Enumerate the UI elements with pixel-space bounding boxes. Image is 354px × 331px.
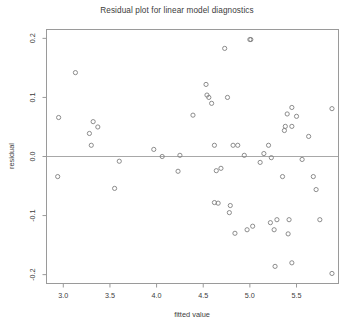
x-tick-label: 3.0 [58, 291, 68, 300]
data-point [204, 82, 208, 86]
data-point [275, 218, 279, 222]
data-point [113, 186, 117, 190]
x-tick-label: 4.0 [152, 291, 162, 300]
x-tick-label: 5.0 [245, 291, 255, 300]
data-point [307, 134, 311, 138]
x-tick-label: 4.5 [198, 291, 208, 300]
residual-plot-figure: Residual plot for linear model diagnosti… [0, 0, 354, 331]
data-point [285, 112, 289, 116]
data-point [290, 105, 294, 109]
data-point [262, 151, 266, 155]
data-point [87, 131, 91, 135]
data-point [282, 128, 286, 132]
data-point [152, 147, 156, 151]
data-point [219, 166, 223, 170]
data-point [212, 143, 216, 147]
data-point [231, 143, 235, 147]
data-point [225, 95, 229, 99]
data-point [268, 221, 272, 225]
data-point [272, 228, 276, 232]
data-point [294, 114, 298, 118]
data-point [89, 143, 93, 147]
data-point [117, 159, 121, 163]
x-tick-label: 3.5 [105, 291, 115, 300]
data-point [56, 174, 60, 178]
x-axis-label: fitted value [174, 310, 210, 319]
y-tick-label: 0.0 [28, 152, 37, 162]
y-axis-label: residual [7, 143, 16, 169]
data-point [258, 160, 262, 164]
data-point [283, 124, 287, 128]
y-tick-label: -0.1 [28, 209, 37, 221]
data-point [223, 46, 227, 50]
data-point [330, 271, 334, 275]
data-point [290, 124, 294, 128]
data-point [330, 107, 334, 111]
data-point [227, 211, 231, 215]
data-point [273, 264, 277, 268]
data-point [251, 224, 255, 228]
x-tick-label: 5.5 [292, 291, 302, 300]
data-point [73, 71, 77, 75]
y-tick-label: 0.2 [28, 33, 37, 43]
data-point [228, 203, 232, 207]
y-axis-ticks: 0.20.10.0-0.1-0.2 [28, 33, 47, 280]
data-point [57, 115, 61, 119]
data-point [191, 113, 195, 117]
data-point [214, 169, 218, 173]
scatter-plot-canvas: 0.20.10.0-0.1-0.2 3.03.54.04.55.05.5 fit… [0, 0, 354, 331]
data-point [176, 169, 180, 173]
y-tick-label: -0.2 [28, 268, 37, 280]
data-point [91, 120, 95, 124]
data-point [286, 232, 290, 236]
data-point [318, 218, 322, 222]
data-point [210, 101, 214, 105]
data-point [96, 125, 100, 129]
data-point [266, 143, 270, 147]
data-point [287, 218, 291, 222]
data-point [300, 157, 304, 161]
data-point [236, 143, 240, 147]
data-point [290, 261, 294, 265]
data-point [314, 187, 318, 191]
data-point [233, 231, 237, 235]
data-point [311, 174, 315, 178]
data-point [245, 228, 249, 232]
data-point [280, 174, 284, 178]
y-tick-label: 0.1 [28, 92, 37, 102]
x-axis-ticks: 3.03.54.04.55.05.5 [58, 284, 301, 300]
